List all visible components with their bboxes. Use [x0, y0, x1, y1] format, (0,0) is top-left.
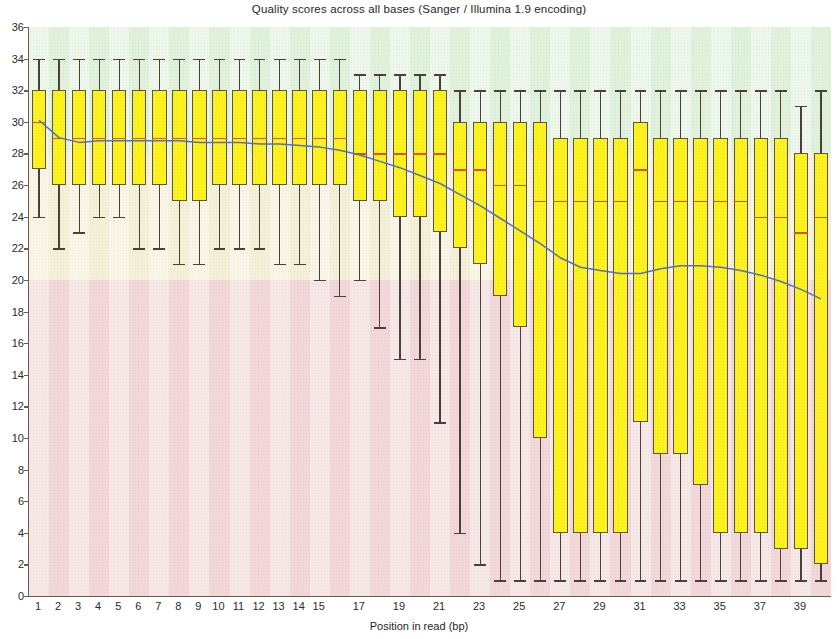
- mean-quality-path: [39, 120, 821, 299]
- x-axis-tick-label: 37: [746, 600, 774, 612]
- x-axis-tick-label: 21: [425, 600, 453, 612]
- mean-quality-line: [29, 27, 831, 596]
- plot-area: [28, 27, 831, 597]
- x-axis-tick-label: 19: [385, 600, 413, 612]
- x-axis-tick-label: 25: [505, 600, 533, 612]
- x-axis-tick-labels: 1234567891011121314151719212325272931333…: [28, 600, 830, 616]
- x-axis-tick-label: 33: [666, 600, 694, 612]
- x-axis-tick-label: 27: [545, 600, 573, 612]
- x-axis-tick-label: 17: [345, 600, 373, 612]
- x-axis-tick-label: 31: [626, 600, 654, 612]
- x-axis-tick-label: 23: [465, 600, 493, 612]
- x-axis-tick-label: 15: [305, 600, 333, 612]
- x-axis-tick-label: 29: [585, 600, 613, 612]
- chart-title: Quality scores across all bases (Sanger …: [0, 3, 838, 15]
- x-axis-tick-label: 39: [786, 600, 814, 612]
- x-axis-tick-label: 35: [706, 600, 734, 612]
- fastqc-per-base-quality-chart: Quality scores across all bases (Sanger …: [0, 0, 838, 639]
- x-axis-title: Position in read (bp): [0, 620, 838, 632]
